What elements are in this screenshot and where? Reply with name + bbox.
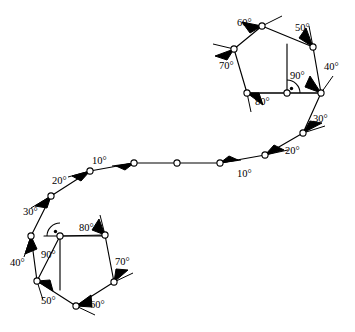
angle-label-upper-60: 60° (237, 18, 252, 29)
angle-label-upper-50: 50° (295, 23, 310, 34)
angle-label-lower-70: 70° (115, 257, 130, 268)
angle-label-curve-40-left: 40° (10, 258, 25, 269)
s-curve-traverse-path (31, 93, 321, 281)
diagram-canvas: 60° 50° 40° 80° 70° 90° 30° 20° 10° 10° … (0, 0, 355, 332)
angle-label-curve-20-left: 20° (52, 176, 67, 187)
angle-label-curve-30-left: 30° (23, 207, 38, 218)
angle-label-upper-90: 90° (290, 71, 305, 82)
angle-label-lower-50: 50° (41, 296, 56, 307)
angle-label-curve-10-right: 10° (237, 169, 252, 180)
angle-label-upper-40: 40° (324, 62, 339, 73)
station-markers (28, 23, 324, 309)
angle-label-curve-30-right: 30° (313, 114, 328, 125)
geometry-figure (0, 0, 355, 332)
angle-label-curve-10-left: 10° (92, 156, 107, 167)
angle-label-upper-70: 70° (219, 61, 234, 72)
angle-label-lower-60: 60° (90, 300, 105, 311)
angle-label-upper-80: 80° (255, 97, 270, 108)
angle-label-lower-90: 90° (41, 250, 56, 261)
angle-label-curve-20-right: 20° (285, 146, 300, 157)
angle-label-lower-80: 80° (79, 223, 94, 234)
